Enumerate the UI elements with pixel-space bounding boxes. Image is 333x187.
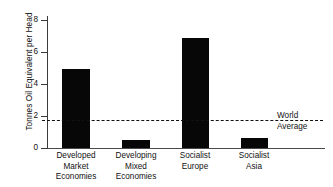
- world-average-label: World Average: [277, 111, 333, 132]
- bar-socialist-europe: [182, 38, 209, 148]
- world-average-label-line2: Average: [277, 122, 333, 133]
- y-tick-mark-0: [41, 148, 48, 149]
- x-category-label-socialist-europe: Socialist Europe: [163, 151, 227, 172]
- cat2-line1: Socialist: [163, 151, 227, 162]
- x-axis-line: [41, 148, 325, 149]
- x-category-label-developing-mixed-economies: Developing Mixed Economies: [104, 151, 168, 183]
- cat3-line2: Asia: [222, 162, 286, 173]
- bar-developing-mixed-economies: [122, 140, 150, 148]
- bar-chart: Tonnes Oil Equivalent per Head 8 6 4 2 0…: [0, 0, 333, 187]
- cat0-line3: Economies: [44, 172, 108, 183]
- cat1-line1: Developing: [104, 151, 168, 162]
- y-tick-mark-2: [41, 116, 48, 117]
- y-tick-label-4: 4: [24, 80, 38, 88]
- y-tick-label-6: 6: [24, 48, 38, 56]
- y-tick-mark-4: [41, 84, 48, 85]
- cat0-line2: Market: [44, 162, 108, 173]
- y-tick-label-8: 8: [24, 16, 38, 24]
- y-tick-mark-6: [41, 52, 48, 53]
- y-tick-label-2: 2: [24, 112, 38, 120]
- x-category-label-developed-market-economies: Developed Market Economies: [44, 151, 108, 183]
- bar-developed-market-economies: [62, 69, 90, 148]
- world-average-label-line1: World: [277, 111, 333, 122]
- y-axis-line: [47, 16, 48, 149]
- y-tick-label-0: 0: [24, 144, 38, 152]
- cat2-line2: Europe: [163, 162, 227, 173]
- cat1-line2: Mixed: [104, 162, 168, 173]
- y-tick-mark-8: [41, 20, 48, 21]
- x-category-label-socialist-asia: Socialist Asia: [222, 151, 286, 172]
- cat0-line1: Developed: [44, 151, 108, 162]
- cat3-line1: Socialist: [222, 151, 286, 162]
- cat1-line3: Economies: [104, 172, 168, 183]
- bar-socialist-asia: [241, 138, 268, 148]
